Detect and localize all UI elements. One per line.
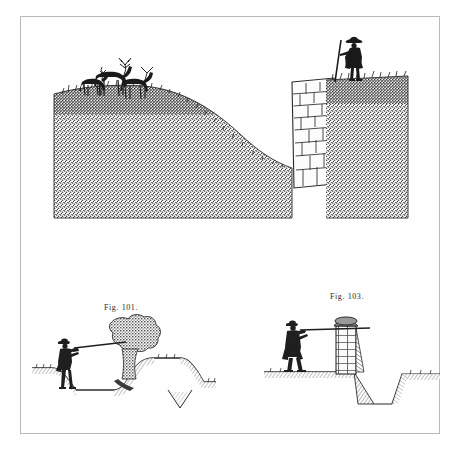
left-earth-bank <box>44 72 304 222</box>
staff-icon <box>335 40 341 82</box>
gun-icon <box>300 328 370 330</box>
figure-101-svg <box>30 312 220 417</box>
figure-103-svg <box>262 308 442 418</box>
figure-103-illustration <box>262 308 442 418</box>
figure-101-illustration <box>30 312 220 417</box>
hedge-bush <box>109 315 160 391</box>
figure-103-caption: Fig. 103. <box>330 292 364 301</box>
scanned-plate-page: Fig. 101. <box>0 0 459 454</box>
masonry-haha-wall <box>334 317 364 374</box>
top-illustration-svg <box>44 22 418 222</box>
right-earth-bank <box>322 71 418 222</box>
figure-101-caption: Fig. 101. <box>104 303 138 312</box>
top-illustration <box>44 22 418 222</box>
